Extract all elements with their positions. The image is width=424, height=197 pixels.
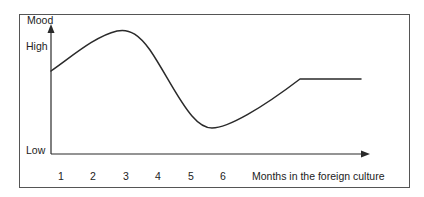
chart-frame [20,15,410,188]
x-tick-2: 2 [90,170,96,182]
x-tick-4: 4 [155,170,161,182]
x-axis-title: Months in the foreign culture [252,170,385,182]
chart-canvas [0,0,424,197]
y-label-high: High [26,40,48,52]
x-tick-5: 5 [188,170,194,182]
x-axis-arrow-icon [361,151,370,158]
x-tick-6: 6 [220,170,226,182]
mood-curve [51,30,361,128]
x-tick-3: 3 [123,170,129,182]
mood-chart: Mood High Low 1 2 3 4 5 6 Months in the … [0,0,424,197]
y-label-low: Low [26,144,45,156]
x-tick-1: 1 [58,170,64,182]
y-axis-title: Mood [27,14,53,26]
